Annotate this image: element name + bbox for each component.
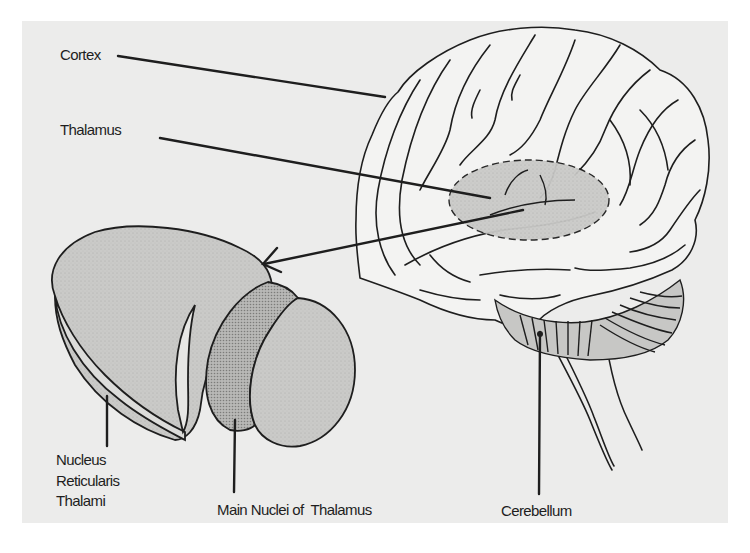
- nrt-line-3: Thalami: [56, 491, 119, 512]
- main-nuclei-pointer: [234, 420, 235, 492]
- thalamus-region: [449, 160, 609, 240]
- enlarged-thalamus: [52, 226, 355, 446]
- cortex-pointer: [118, 56, 385, 97]
- brain-illustration: [356, 27, 709, 470]
- nucleus-reticularis-label: Nucleus Reticularis Thalami: [56, 450, 119, 512]
- main-nuclei-label: Main Nuclei of Thalamus: [217, 500, 372, 520]
- nrt-line-1: Nucleus: [56, 450, 119, 471]
- thalamus-label: Thalamus: [60, 120, 121, 140]
- cerebellum-pointer: [539, 332, 540, 494]
- cortex-label: Cortex: [60, 45, 101, 65]
- nrt-line-2: Reticularis: [56, 471, 119, 492]
- cerebellum-label: Cerebellum: [501, 501, 572, 521]
